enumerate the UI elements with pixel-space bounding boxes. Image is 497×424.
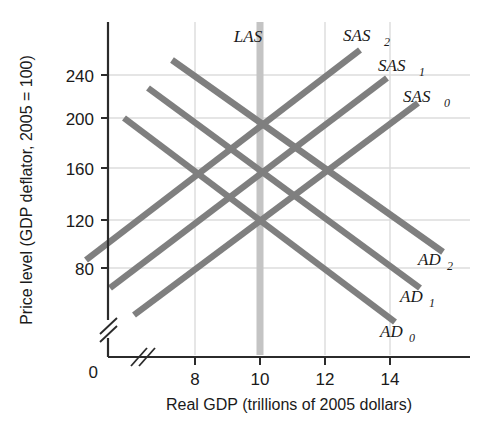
y-tick-label-200: 200 <box>66 110 94 129</box>
curve-label-sas2-text: SAS <box>343 26 371 45</box>
curve-label-ad1: AD 1 <box>399 287 435 310</box>
curve-label-ad0: AD 0 <box>379 322 415 345</box>
curve-label-sas1-sub: 1 <box>419 65 425 79</box>
curve-label-sas0-text: SAS <box>403 87 431 106</box>
aggregate-supply-demand-figure: 240 200 160 120 80 8 10 12 14 0 Real GDP… <box>0 0 497 424</box>
curve-sas2 <box>86 50 360 260</box>
x-ticks <box>195 357 390 365</box>
curve-label-sas2-sub: 2 <box>384 35 390 49</box>
curve-label-ad2: AD 2 <box>417 250 453 273</box>
x-tick-label-14: 14 <box>381 370 400 389</box>
curve-label-sas1-text: SAS <box>378 56 406 75</box>
x-tick-label-12: 12 <box>316 370 335 389</box>
curve-label-ad2-sub: 2 <box>447 259 453 273</box>
curve-label-sas0-sub: 0 <box>444 96 450 110</box>
curve-label-ad0-sub: 0 <box>409 331 415 345</box>
y-tick-label-240: 240 <box>66 67 94 86</box>
y-tick-label-80: 80 <box>75 260 94 279</box>
curve-label-las: LAS <box>233 27 263 46</box>
sas-curves <box>86 50 418 315</box>
x-axis-title: Real GDP (trillions of 2005 dollars) <box>166 396 412 413</box>
chart-canvas: 240 200 160 120 80 8 10 12 14 0 Real GDP… <box>0 0 497 424</box>
curve-label-ad0-text: AD <box>379 322 403 341</box>
y-tick-label-120: 120 <box>66 212 94 231</box>
curve-label-las-text: LAS <box>233 27 263 46</box>
curve-label-sas2: SAS 2 <box>343 26 390 49</box>
y-tick-label-160: 160 <box>66 160 94 179</box>
curve-label-ad1-sub: 1 <box>429 296 435 310</box>
grid-vertical <box>195 22 390 355</box>
origin-label: 0 <box>89 363 98 382</box>
x-tick-label-10: 10 <box>251 370 270 389</box>
x-tick-label-8: 8 <box>190 370 199 389</box>
curve-label-ad2-text: AD <box>417 250 441 269</box>
curve-label-ad1-text: AD <box>399 287 423 306</box>
y-axis-title: Price level (GDP deflator, 2005 = 100) <box>18 55 35 325</box>
